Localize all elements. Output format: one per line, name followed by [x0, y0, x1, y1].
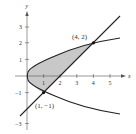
point-label-1-neg1: (1, −1) — [35, 102, 55, 110]
x-tick-label: 2 — [59, 80, 62, 86]
x-tick-label: 5 — [108, 80, 111, 86]
intersection-point-1-neg1 — [42, 91, 45, 94]
y-tick-label: −3 — [15, 121, 21, 127]
y-tick-label: 1 — [19, 57, 22, 63]
y-tick-label: −1 — [15, 90, 21, 96]
y-tick-label: 3 — [19, 24, 22, 30]
intersection-point-4-2 — [92, 41, 95, 44]
x-tick-label: 3 — [75, 80, 78, 86]
y-axis-label: y — [25, 3, 29, 9]
point-label-4-2: (4, 2) — [72, 33, 88, 41]
x-axis-arrow-icon — [121, 74, 126, 77]
x-axis-label: x — [127, 73, 131, 79]
region-diagram: x 1 2 3 4 5 y — [0, 0, 136, 134]
x-tick-label: 4 — [92, 80, 95, 86]
x-tick-label: 1 — [42, 80, 45, 86]
y-tick-label: 2 — [19, 40, 22, 46]
y-axis: y 3 2 1 −1 −3 — [15, 3, 29, 130]
y-axis-arrow-icon — [25, 11, 28, 16]
